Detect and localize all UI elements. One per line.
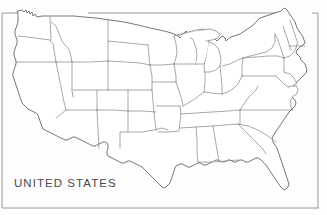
united-states-map-figure: UNITED STATES: [0, 0, 327, 215]
map-caption: UNITED STATES: [14, 178, 117, 190]
